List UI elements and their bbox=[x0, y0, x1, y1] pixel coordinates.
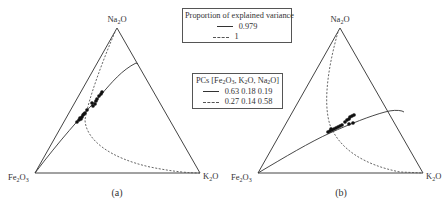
dashed-line-swatch-icon bbox=[203, 102, 219, 103]
dashed-line-swatch-icon bbox=[213, 37, 229, 38]
vertex-label-fe2o3-a: Fe2O3 bbox=[8, 172, 29, 183]
legend-entry-solid: 0.979 bbox=[185, 22, 289, 33]
legend-title: Proportion of explained variance bbox=[185, 11, 289, 22]
legend-entry-dashed: 1 bbox=[185, 32, 289, 43]
legend-entry-label: 1 bbox=[235, 32, 262, 43]
legend-pcs: PCs [Fe2O3, K2O, Na2O] 0.63 0.18 0.19 0.… bbox=[192, 73, 283, 109]
legend-entry-label: 0.27 0.14 0.58 bbox=[225, 97, 273, 108]
legend-entry-solid: 0.63 0.18 0.19 bbox=[195, 87, 280, 98]
panel-caption-b: (b) bbox=[335, 187, 347, 199]
solid-curve-b bbox=[258, 110, 404, 173]
vertex-label-na2o-a: Na2O bbox=[107, 14, 126, 25]
legend-entry-dashed: 0.27 0.14 0.58 bbox=[195, 97, 280, 108]
solid-curve-a bbox=[35, 63, 138, 173]
dashed-curve-b bbox=[327, 32, 423, 173]
vertex-label-fe2o3-b: Fe2O3 bbox=[231, 172, 252, 183]
solid-line-swatch-icon bbox=[203, 91, 219, 92]
panel-caption-a: (a) bbox=[111, 187, 122, 199]
legend-title: PCs [Fe2O3, K2O, Na2O] bbox=[195, 76, 280, 87]
ternary-triangle-a bbox=[35, 28, 200, 173]
legend-explained-variance: Proportion of explained variance 0.979 1 bbox=[182, 8, 292, 43]
legend-entry-label: 0.979 bbox=[239, 22, 258, 33]
vertex-label-k2o-b: K2O bbox=[426, 171, 441, 182]
vertex-label-na2o-b: Na2O bbox=[330, 14, 349, 25]
data-points-b bbox=[326, 113, 356, 134]
legend-entry-label: 0.63 0.18 0.19 bbox=[225, 87, 273, 98]
vertex-label-k2o-a: K2O bbox=[203, 171, 218, 182]
solid-line-swatch-icon bbox=[217, 26, 233, 27]
